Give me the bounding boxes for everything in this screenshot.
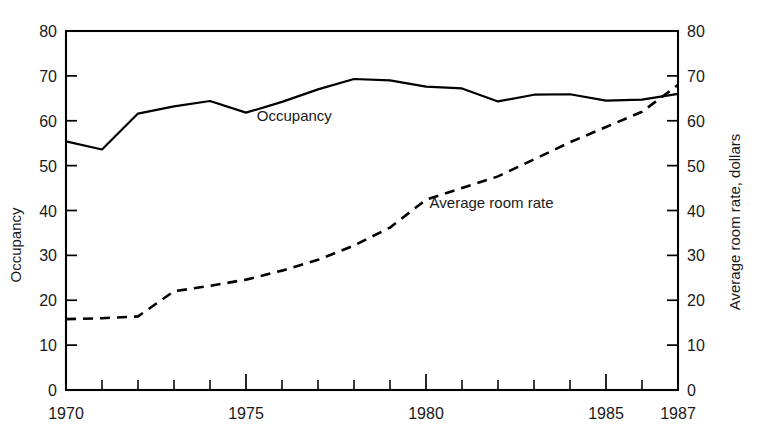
occupancy-room-rate-chart: 01020304050607080 01020304050607080 1970…	[0, 0, 758, 434]
x-tick-label: 1985	[588, 405, 624, 422]
x-tick-label: 1975	[228, 405, 264, 422]
y-tick-label-right: 60	[687, 113, 705, 130]
y-tick-label-right: 0	[687, 382, 696, 399]
y-tick-label-left: 10	[39, 337, 57, 354]
y-tick-label-left: 60	[39, 113, 57, 130]
series-label-occupancy: Occupancy	[257, 107, 333, 124]
chart-background	[0, 0, 758, 434]
y-tick-label-left: 50	[39, 158, 57, 175]
y-axis-right-title: Average room rate, dollars	[726, 134, 743, 310]
y-tick-label-left: 70	[39, 68, 57, 85]
y-tick-label-left: 30	[39, 247, 57, 264]
y-tick-label-right: 50	[687, 158, 705, 175]
y-tick-label-left: 0	[48, 382, 57, 399]
y-axis-right-tick-labels: 01020304050607080	[687, 23, 705, 399]
series-label-average-room-rate: Average room rate	[430, 194, 554, 211]
y-axis-left-tick-labels: 01020304050607080	[39, 23, 57, 399]
y-tick-label-left: 80	[39, 23, 57, 40]
y-tick-label-right: 20	[687, 292, 705, 309]
x-tick-label: 1987	[660, 405, 696, 422]
y-tick-label-right: 70	[687, 68, 705, 85]
y-axis-left-title: Occupancy	[7, 207, 24, 283]
y-tick-label-right: 80	[687, 23, 705, 40]
y-tick-label-left: 40	[39, 203, 57, 220]
x-tick-label: 1980	[408, 405, 444, 422]
y-tick-label-right: 30	[687, 247, 705, 264]
y-tick-label-right: 10	[687, 337, 705, 354]
y-tick-label-left: 20	[39, 292, 57, 309]
x-tick-label: 1970	[48, 405, 84, 422]
y-tick-label-right: 40	[687, 203, 705, 220]
